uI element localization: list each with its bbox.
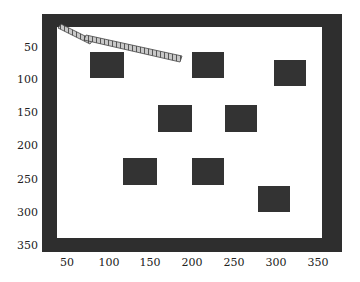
x-tick-label: 300 xyxy=(261,256,291,269)
y-tick-label: 200 xyxy=(4,139,38,152)
y-tick-label: 250 xyxy=(4,173,38,186)
y-tick-label: 350 xyxy=(4,239,38,252)
robot-arm xyxy=(0,0,360,282)
y-tick-label: 50 xyxy=(4,41,38,54)
x-tick-label: 200 xyxy=(177,256,207,269)
arm-link-2 xyxy=(84,35,182,62)
x-tick-label: 350 xyxy=(303,256,333,269)
y-tick-label: 150 xyxy=(4,106,38,119)
y-tick-label: 100 xyxy=(4,73,38,86)
y-tick-label: 300 xyxy=(4,206,38,219)
x-tick-label: 150 xyxy=(135,256,165,269)
x-tick-label: 50 xyxy=(52,256,82,269)
x-tick-label: 250 xyxy=(219,256,249,269)
x-tick-label: 100 xyxy=(94,256,124,269)
